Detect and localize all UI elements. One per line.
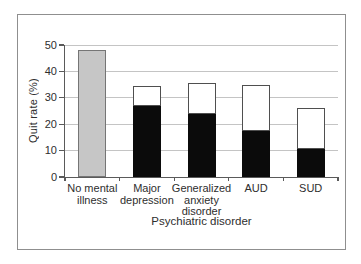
x-axis-line: [64, 177, 339, 178]
category-label-line: SUD: [271, 183, 351, 195]
y-tick-label: 10: [23, 144, 57, 157]
gridline: [65, 45, 338, 46]
bar-segment-black: [297, 149, 325, 177]
bar-segment-white: [133, 86, 161, 106]
bar-segment-black: [242, 131, 270, 177]
bar-segment-white: [297, 108, 325, 149]
y-tick-label: 0: [23, 171, 57, 184]
x-axis-tick: [337, 177, 338, 181]
y-axis-tick: [59, 71, 64, 72]
y-axis-tick: [59, 97, 64, 98]
bar-segment-white: [188, 83, 216, 113]
bar-segment-black: [188, 114, 216, 177]
y-tick-label: 30: [23, 91, 57, 104]
category-label-line: disorder: [162, 206, 242, 218]
x-axis-tick: [119, 177, 120, 181]
category-label: SUD: [271, 183, 351, 195]
y-axis-line: [64, 45, 65, 178]
y-tick-label: 20: [23, 118, 57, 131]
y-tick-label: 50: [23, 39, 57, 52]
x-axis-tick: [64, 177, 65, 181]
y-axis-tick: [59, 44, 64, 45]
y-tick-label: 40: [23, 65, 57, 78]
bar-segment-black: [133, 106, 161, 177]
x-axis-tick: [228, 177, 229, 181]
y-axis-tick: [59, 124, 64, 125]
y-axis-tick: [59, 150, 64, 151]
bar-segment-no-mental-illness: [78, 50, 106, 177]
x-axis-tick: [174, 177, 175, 181]
bar-segment-white: [242, 85, 270, 131]
y-axis-tick: [59, 176, 64, 177]
plot-area: Quit rate (%) Psychiatric disorder 01020…: [65, 45, 338, 177]
x-axis-tick: [283, 177, 284, 181]
figure-frame: Quit rate (%) Psychiatric disorder 01020…: [17, 14, 346, 250]
